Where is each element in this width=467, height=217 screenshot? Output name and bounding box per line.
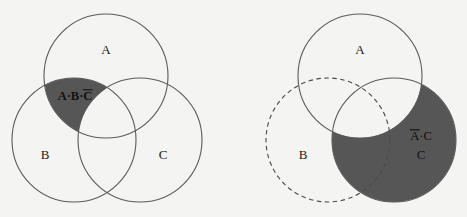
right-venn-diagram: A B C A·C <box>233 0 467 217</box>
left-region-expression-text: A·B·C <box>58 89 93 103</box>
left-region-expression: A·B·C <box>58 89 93 103</box>
left-label-b: B <box>41 147 50 162</box>
right-label-c: C <box>417 147 426 162</box>
left-venn-svg: A B C A·B·C <box>0 0 233 217</box>
left-label-c: C <box>159 147 168 162</box>
left-label-a: A <box>101 42 111 57</box>
right-region-expression: A·C <box>410 129 432 143</box>
right-venn-svg: A B C A·C <box>233 0 467 217</box>
right-label-b: B <box>299 147 308 162</box>
right-label-a: A <box>355 42 365 57</box>
left-venn-diagram: A B C A·B·C <box>0 0 233 217</box>
right-region-expression-text: A·C <box>410 129 432 143</box>
venn-diagram-figure: A B C A·B·C <box>0 0 467 217</box>
